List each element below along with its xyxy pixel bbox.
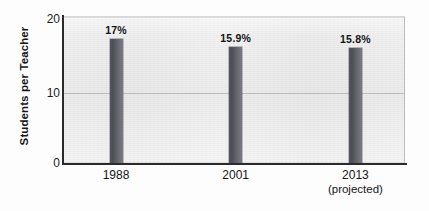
bar-2013	[349, 48, 362, 163]
x-axis-category-labels: 1988 2001 2013 (projected)	[63, 168, 405, 210]
bar-1988	[110, 39, 123, 163]
bar-2001	[229, 47, 242, 163]
y-axis-title: Students per Teacher	[14, 16, 34, 156]
y-tick-label-10: 10	[36, 87, 60, 99]
x-category-1988: 1988	[56, 168, 176, 182]
bar-chart: Students per Teacher 20 10 0 17% 15.9% 1…	[0, 0, 429, 211]
x-category-sublabel: (projected)	[295, 182, 415, 197]
x-category-2001: 2001	[176, 168, 296, 182]
y-tick-label-20: 20	[36, 13, 60, 25]
bar-value-label-1988: 17%	[86, 25, 146, 36]
x-category-label: 2013	[295, 168, 415, 182]
bars-layer: 17% 15.9% 15.8%	[63, 17, 405, 163]
bar-value-label-2001: 15.9%	[206, 33, 266, 44]
x-category-label: 1988	[56, 168, 176, 182]
x-category-2013: 2013 (projected)	[295, 168, 415, 197]
x-category-label: 2001	[176, 168, 296, 182]
bar-value-label-2013: 15.8%	[325, 34, 385, 45]
x-axis-line	[62, 163, 407, 165]
